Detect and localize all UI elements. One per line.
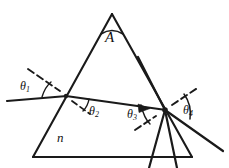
theta1-label: θ1 bbox=[20, 80, 30, 94]
entry-point-node bbox=[64, 94, 68, 98]
exit-point-node bbox=[162, 107, 168, 113]
emergent-ray-main bbox=[165, 110, 223, 151]
theta4-label: θ4 bbox=[183, 104, 193, 118]
prism-refraction-figure: A n θ1 θ2 θ3 θ4 bbox=[0, 0, 229, 168]
exit-ray-bundle bbox=[149, 110, 223, 168]
prism-left-face bbox=[33, 14, 112, 157]
apex-angle-label: A bbox=[105, 30, 114, 45]
theta4-subscript: 4 bbox=[189, 109, 193, 118]
refractive-index-symbol: n bbox=[57, 130, 64, 145]
theta2-subscript: 2 bbox=[95, 110, 99, 119]
theta1-subscript: 1 bbox=[26, 85, 30, 94]
theta3-label: θ3 bbox=[127, 108, 137, 122]
entry-normal-dashed-upper bbox=[28, 69, 60, 91]
apex-angle-symbol: A bbox=[105, 29, 114, 45]
theta3-subscript: 3 bbox=[133, 113, 137, 122]
internal-ray-arrowhead bbox=[138, 104, 150, 113]
incident-ray bbox=[7, 96, 67, 101]
exit-ray-downward-left bbox=[149, 110, 165, 168]
theta2-label: θ2 bbox=[89, 105, 99, 119]
entry-normal-dashed-lower bbox=[72, 101, 90, 114]
exit-point-upper-ray bbox=[138, 57, 165, 110]
prism-diagram-canvas bbox=[0, 0, 229, 168]
refractive-index-label: n bbox=[57, 131, 64, 144]
